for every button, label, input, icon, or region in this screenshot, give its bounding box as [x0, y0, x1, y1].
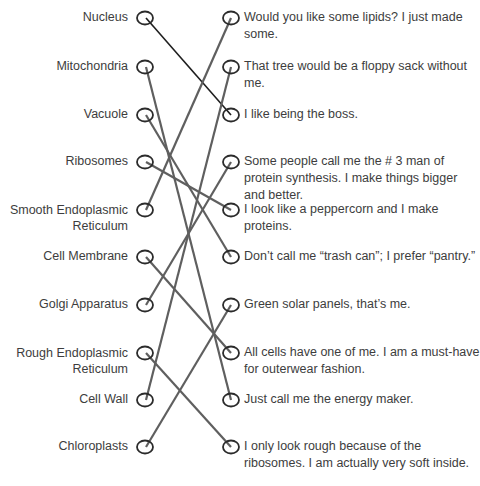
match-line-chloroplasts[interactable] [146, 305, 231, 447]
match-line-cell-membrane[interactable] [146, 257, 231, 353]
match-line-rough-endoplasmic-reticulum[interactable] [146, 353, 231, 447]
left-circle-mitochondria[interactable] [137, 61, 153, 74]
description-text-3: I like being the boss. [244, 106, 480, 123]
organelle-label-mitochondria: Mitochondria [56, 58, 128, 74]
organelle-label-cell-membrane: Cell Membrane [43, 248, 128, 264]
left-circle-rough-endoplasmic-reticulum[interactable] [137, 347, 153, 360]
description-text-2: That tree would be a floppy sack without… [244, 58, 480, 92]
organelle-label-vacuole: Vacuole [84, 106, 128, 122]
description-text-9: Just call me the energy maker. [244, 391, 480, 408]
organelle-label-ribosomes: Ribosomes [65, 153, 128, 169]
organelle-label-golgi-apparatus: Golgi Apparatus [39, 296, 128, 312]
description-text-8: All cells have one of me. I am a must-ha… [244, 344, 480, 378]
left-circle-vacuole[interactable] [137, 109, 153, 122]
organelle-label-line1: Smooth Endoplasmic [10, 202, 128, 218]
connection-lines [146, 18, 231, 447]
description-text-5: I look like a peppercorn and I make prot… [244, 201, 480, 235]
left-circle-cell-membrane[interactable] [137, 251, 153, 264]
organelle-label-smooth-endoplasmic-reticulum: Smooth EndoplasmicReticulum [10, 202, 128, 234]
description-text-4: Some people call me the # 3 man of prote… [244, 153, 480, 204]
organelle-label-nucleus: Nucleus [83, 9, 128, 25]
description-text-10: I only look rough because of the ribosom… [244, 438, 480, 472]
match-line-nucleus[interactable] [146, 18, 231, 115]
left-circle-smooth-endoplasmic-reticulum[interactable] [137, 204, 153, 217]
organelle-label-line2: Reticulum [10, 218, 128, 234]
organelle-label-chloroplasts: Chloroplasts [59, 438, 128, 454]
left-circle-cell-wall[interactable] [137, 394, 153, 407]
description-text-7: Green solar panels, that’s me. [244, 296, 480, 313]
left-circle-ribosomes[interactable] [137, 156, 153, 169]
organelle-label-cell-wall: Cell Wall [79, 391, 128, 407]
description-text-6: Don’t call me “trash can”; I prefer “pan… [244, 248, 480, 265]
organelle-label-line1: Rough Endoplasmic [16, 345, 128, 361]
left-circle-chloroplasts[interactable] [137, 441, 153, 454]
left-circle-nucleus[interactable] [137, 12, 153, 25]
organelle-label-line2: Reticulum [16, 361, 128, 377]
organelle-label-rough-endoplasmic-reticulum: Rough EndoplasmicReticulum [16, 345, 128, 377]
left-circle-golgi-apparatus[interactable] [137, 299, 153, 312]
description-text-1: Would you like some lipids? I just made … [244, 9, 480, 43]
match-line-ribosomes[interactable] [146, 162, 231, 210]
